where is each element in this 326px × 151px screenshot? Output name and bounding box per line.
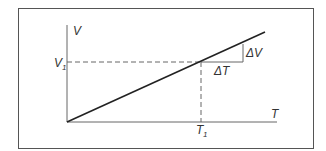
y-axis-label: V <box>73 24 82 38</box>
v-t-line <box>67 32 265 122</box>
delta-v-label: ΔV <box>245 46 263 60</box>
t1-subscript: 1 <box>203 130 207 139</box>
delta-t-label: ΔT <box>213 64 231 78</box>
diagram-frame <box>19 9 314 149</box>
x-axis-label: T <box>271 107 280 121</box>
v1-subscript: 1 <box>62 63 66 72</box>
diagram: V T V 1 T 1 ΔV ΔT <box>0 0 326 151</box>
slope-triangle <box>201 44 243 62</box>
